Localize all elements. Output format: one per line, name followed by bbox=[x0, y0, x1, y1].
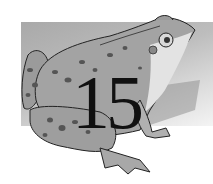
number-label: 15 bbox=[72, 64, 140, 140]
